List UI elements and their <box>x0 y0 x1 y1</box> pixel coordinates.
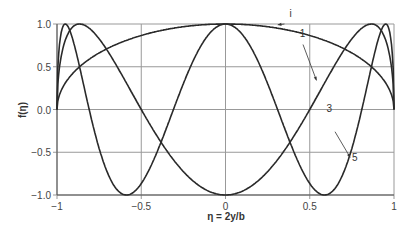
curve-label: i <box>290 8 292 19</box>
y-axis-title: f(η) <box>17 102 28 118</box>
x-tick-label: 0.5 <box>303 201 317 212</box>
y-tick-label: 1.0 <box>37 19 51 30</box>
curve-label: 1 <box>300 28 306 39</box>
y-tick-label: 0.5 <box>37 62 51 73</box>
y-tick-label: −0.5 <box>31 147 51 158</box>
curve-label: 5 <box>352 152 358 163</box>
x-tick-label: 1 <box>391 201 397 212</box>
x-tick-label: −0.5 <box>131 201 151 212</box>
y-tick-label: 0.0 <box>37 105 51 116</box>
x-axis-title: η = 2y/b <box>207 211 245 222</box>
x-tick-label: −1 <box>51 201 63 212</box>
curve-label: 3 <box>327 103 333 114</box>
y-tick-label: −1.0 <box>31 190 51 201</box>
chart: i135 −1−0.500.511.00.50.0−0.5−1.0 η = 2y… <box>0 0 411 242</box>
